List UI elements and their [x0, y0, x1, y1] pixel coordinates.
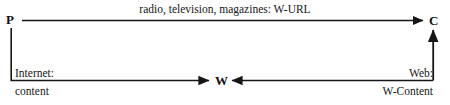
- edge-label-w-to-c-line2: W-Content: [283, 84, 433, 98]
- node-label-w: W: [215, 74, 228, 87]
- diagram-canvas: P C W radio, television, magazines: W-UR…: [0, 0, 450, 105]
- edge-label-p-to-c: radio, television, magazines: W-URL: [0, 2, 450, 16]
- edge-label-w-to-c-line1: Web:: [283, 66, 433, 80]
- edge-label-p-to-w-line1: Internet:: [15, 66, 54, 80]
- edge-label-p-to-w-line2: content: [15, 84, 49, 98]
